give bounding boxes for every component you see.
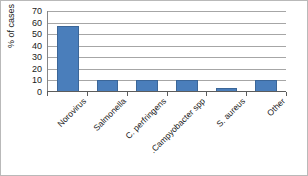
bars-layer: [48, 11, 286, 91]
bar-chart-figure: % of cases 010203040506070 NorovirusSalm…: [0, 0, 308, 176]
bar-slot: [167, 11, 207, 91]
bar: [255, 80, 276, 91]
x-axis-label: C. perfringens: [161, 96, 168, 103]
y-tick-label: 20: [32, 64, 42, 73]
bar: [216, 88, 237, 91]
y-tick-label: 50: [32, 30, 42, 39]
x-axis-label: Salmonella: [121, 96, 128, 103]
y-tick-label: 10: [32, 76, 42, 85]
bar: [176, 80, 197, 91]
x-axis-label: Norovirus: [81, 96, 88, 103]
bar-slot: [246, 11, 286, 91]
bar-slot: [207, 11, 247, 91]
x-axis-label: Campyobacter spp.: [200, 96, 207, 103]
y-axis-tick-labels: 010203040506070: [15, 6, 42, 92]
bar-slot: [127, 11, 167, 91]
x-axis-label: S. aureus: [240, 96, 247, 103]
bar-slot: [88, 11, 128, 91]
plot-area: [47, 11, 286, 92]
y-tick-label: 40: [32, 41, 42, 50]
bar: [97, 80, 118, 91]
bar-slot: [48, 11, 88, 91]
bar: [136, 80, 157, 91]
y-tick-label: 30: [32, 53, 42, 62]
x-axis-label: Other: [280, 96, 287, 103]
y-tick-label: 0: [37, 88, 42, 97]
x-tick: [286, 92, 287, 96]
y-tick-label: 60: [32, 18, 42, 27]
bar: [57, 26, 78, 91]
y-tick-label: 70: [32, 7, 42, 16]
x-axis-category-labels: NorovirusSalmonellaC. perfringensCampyob…: [47, 96, 286, 174]
